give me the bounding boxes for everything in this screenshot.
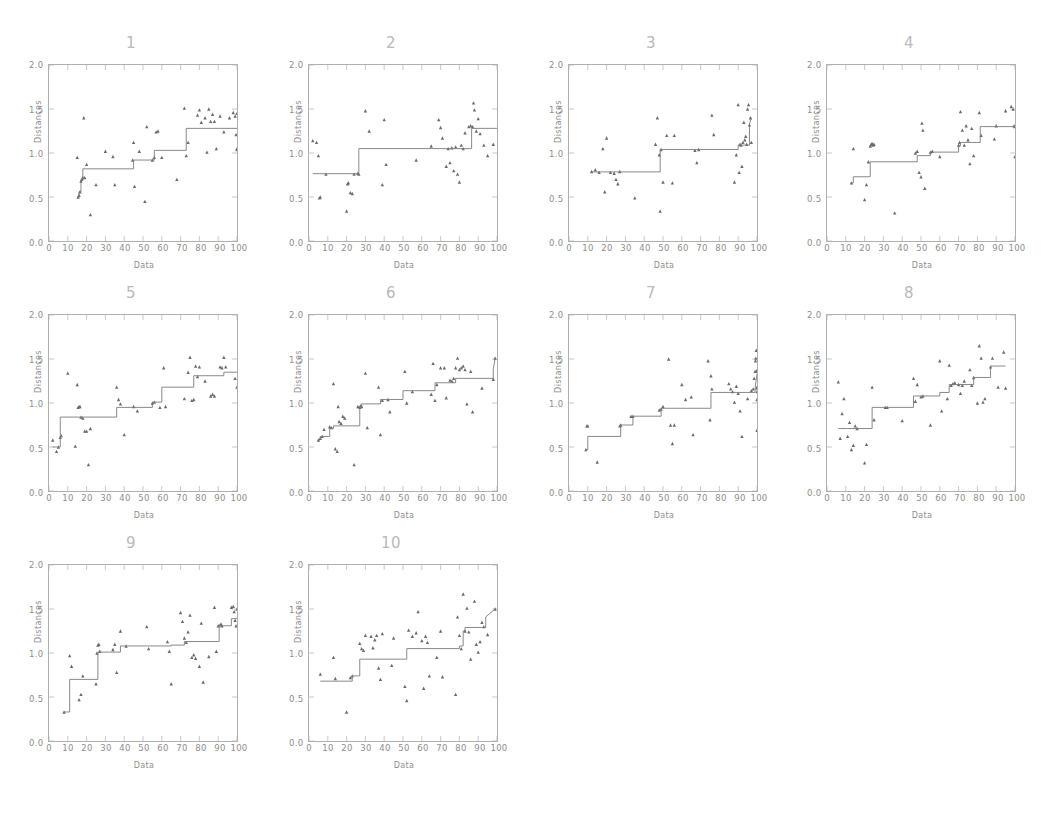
data-point <box>472 101 475 104</box>
data-point <box>381 183 384 186</box>
x-tick-label: 70 <box>696 493 707 503</box>
scatter-markers <box>850 105 1015 215</box>
data-point <box>233 377 236 380</box>
data-point <box>601 147 604 150</box>
data-point <box>465 606 468 609</box>
figure-canvas: 10.00.51.01.52.00102030405060708090100Di… <box>0 0 1048 828</box>
data-point <box>345 710 348 713</box>
subplot-title: 2 <box>260 34 522 52</box>
data-point <box>377 385 380 388</box>
tick-marks <box>49 65 237 241</box>
data-point <box>981 400 984 403</box>
tick-marks <box>309 565 497 741</box>
data-point <box>188 356 191 359</box>
x-tick-label: 50 <box>138 493 149 503</box>
x-tick-label: 90 <box>214 243 225 253</box>
data-point <box>477 650 480 653</box>
x-tick-label: 20 <box>601 493 612 503</box>
x-tick-label: 30 <box>100 243 111 253</box>
y-tick-label: 0.0 <box>29 488 43 498</box>
data-point <box>729 387 732 390</box>
data-point <box>390 664 393 667</box>
data-point <box>901 419 904 422</box>
x-tick-label: 20 <box>341 243 352 253</box>
x-tick-label: 10 <box>62 493 73 503</box>
data-point <box>200 121 203 124</box>
data-point <box>104 150 107 153</box>
data-point <box>737 171 740 174</box>
x-tick-label: 20 <box>81 243 92 253</box>
data-point <box>959 110 962 113</box>
data-point <box>477 117 480 120</box>
y-tick-label: 1.0 <box>289 149 303 159</box>
data-point <box>117 398 120 401</box>
scatter-markers <box>837 344 1008 464</box>
data-point <box>232 610 235 613</box>
step-fit-line <box>53 372 237 447</box>
data-point <box>371 646 374 649</box>
data-point <box>755 398 757 401</box>
data-point <box>51 438 54 441</box>
y-tick-label: 0.0 <box>807 238 821 248</box>
data-point <box>183 397 186 400</box>
x-axis-label: Data <box>827 261 1017 270</box>
y-tick-label: 0.5 <box>289 194 303 204</box>
subplot-9: 90.00.51.01.52.00102030405060708090100Di… <box>0 528 262 777</box>
data-point <box>379 678 382 681</box>
data-point <box>486 154 489 157</box>
data-point <box>742 121 745 124</box>
data-point <box>673 423 676 426</box>
x-tick-label: 80 <box>973 243 984 253</box>
data-point <box>473 599 476 602</box>
x-tick-label: 60 <box>157 743 168 753</box>
x-tick-label: 80 <box>195 493 206 503</box>
plot-canvas <box>49 315 237 491</box>
x-tick-label: 40 <box>119 743 130 753</box>
plot-canvas <box>309 65 497 241</box>
x-tick-label: 70 <box>696 243 707 253</box>
plot-area: 0.00.51.01.52.00102030405060708090100Dis… <box>48 314 238 492</box>
data-point <box>749 116 752 119</box>
data-point <box>123 433 126 436</box>
data-point <box>854 424 857 427</box>
x-tick-label: 50 <box>398 493 409 503</box>
data-point <box>186 141 189 144</box>
x-tick-label: 70 <box>176 493 187 503</box>
data-point <box>471 410 474 413</box>
data-point <box>168 650 171 653</box>
data-point <box>445 396 448 399</box>
data-point <box>746 397 749 400</box>
data-point <box>160 156 163 159</box>
data-point <box>1002 350 1005 353</box>
data-point <box>179 611 182 614</box>
data-point <box>475 129 478 132</box>
data-point <box>596 460 599 463</box>
x-axis-label: Data <box>309 261 499 270</box>
data-point <box>143 200 146 203</box>
data-point <box>865 443 868 446</box>
x-axis-label: Data <box>569 511 759 520</box>
x-tick-label: 40 <box>119 493 130 503</box>
data-point <box>594 168 597 171</box>
data-point <box>755 349 757 352</box>
y-tick-label: 2.0 <box>549 310 563 320</box>
data-point <box>94 682 97 685</box>
y-tick-label: 2.0 <box>29 310 43 320</box>
data-point <box>492 143 495 146</box>
data-point <box>929 423 932 426</box>
plot-area: 0.00.51.01.52.00102030405060708090100Dis… <box>308 314 498 492</box>
y-axis-label: Distances <box>812 100 821 143</box>
data-point <box>218 114 221 117</box>
x-axis-label: Data <box>49 261 239 270</box>
data-point <box>458 634 461 637</box>
data-point <box>87 463 90 466</box>
data-point <box>186 371 189 374</box>
scatter-markers <box>311 101 495 213</box>
data-point <box>138 150 141 153</box>
data-point <box>690 395 693 398</box>
y-tick-label: 0.5 <box>29 194 43 204</box>
data-point <box>203 379 206 382</box>
data-point <box>863 461 866 464</box>
plot-canvas <box>49 65 237 241</box>
subplot-title: 5 <box>0 284 262 302</box>
